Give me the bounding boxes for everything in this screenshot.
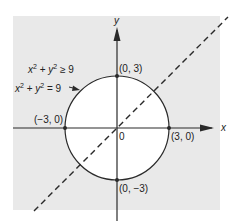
point-label-3-0: (3, 0) [171, 131, 194, 142]
y-axis-label: y [113, 15, 120, 26]
point-label-neg3-0: (−3, 0) [34, 114, 63, 125]
origin-label: 0 [119, 131, 125, 142]
point-label-0-3: (0, 3) [119, 63, 142, 74]
x-axis-label: x [220, 122, 227, 133]
point-0-3 [115, 74, 119, 78]
point-0-neg3 [115, 178, 119, 182]
point-neg3-0 [63, 126, 67, 130]
circle-inequality-diagram: y x 0 (0, 3) (−3, 0) (3, 0) (0, −3) x2 +… [0, 0, 238, 223]
point-3-0 [167, 126, 171, 130]
point-label-0-neg3: (0, −3) [119, 183, 148, 194]
